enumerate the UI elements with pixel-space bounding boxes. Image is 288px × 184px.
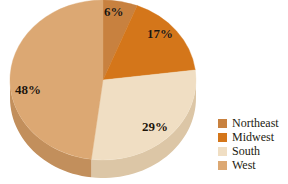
legend-item[interactable]: Northeast (218, 116, 288, 130)
legend-item[interactable]: South (218, 144, 288, 158)
legend-item[interactable]: West (218, 158, 288, 172)
legend-item-label: Midwest (232, 130, 274, 144)
legend-item-label: South (232, 144, 260, 158)
legend-swatch-icon (218, 133, 227, 142)
slice-label-midwest: 17% (147, 27, 173, 40)
legend-swatch-icon (218, 119, 227, 128)
slice-label-west: 48% (15, 83, 41, 96)
pie-chart-figure: 6% 17% 29% 48% NortheastMidwestSouthWest (0, 0, 288, 184)
legend-item[interactable]: Midwest (218, 130, 288, 144)
pie-slice-south[interactable] (91, 70, 196, 160)
slice-label-south: 29% (142, 120, 168, 133)
pie-plot-area: 6% 17% 29% 48% (0, 0, 210, 184)
legend-swatch-icon (218, 147, 227, 156)
legend-item-label: West (232, 158, 256, 172)
slice-label-northeast: 6% (104, 5, 124, 18)
pie-top-faces (10, 0, 196, 160)
legend-item-label: Northeast (232, 116, 279, 130)
legend-swatch-icon (218, 161, 227, 170)
chart-legend: NortheastMidwestSouthWest (218, 116, 288, 172)
